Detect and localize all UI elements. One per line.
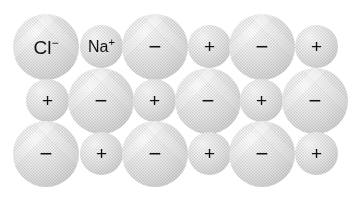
chloride-ion-r1-c1: Cl−: [13, 14, 79, 80]
sodium-ion-r3-c4: +: [188, 132, 231, 175]
positive-charge-sign: +: [204, 37, 215, 56]
negative-charge-sign: −: [256, 143, 269, 165]
chloride-ion-r2-c6: −: [282, 68, 348, 134]
chloride-ion-r1-c5: −: [229, 14, 295, 80]
chloride-ion-r3-c3: −: [122, 121, 188, 187]
sodium-ion-r1-c6: +: [295, 25, 338, 68]
chloride-ion-r3-c5: −: [229, 121, 295, 187]
negative-charge-sign: −: [149, 143, 162, 165]
ionic-lattice-figure: Cl−Na+−+−++−+−+−−+−+−+: [0, 0, 357, 197]
sodium-ion-r3-c2: +: [80, 132, 123, 175]
chloride-ion-r2-c4: −: [175, 68, 241, 134]
sodium-ion-r1-c2: Na+: [80, 25, 123, 68]
ion-formula-label: Cl−: [34, 38, 59, 57]
sodium-ion-r2-c1: +: [26, 79, 69, 122]
negative-charge-sign: −: [149, 36, 162, 58]
sodium-ion-r3-c6: +: [295, 132, 338, 175]
ion-formula-label: Na+: [88, 39, 115, 55]
chloride-ion-r3-c1: −: [13, 121, 79, 187]
positive-charge-sign: +: [42, 91, 53, 110]
ion-charge-superscript: −: [51, 35, 58, 49]
sodium-ion-r2-c5: +: [240, 79, 283, 122]
ion-element-symbol: Na: [88, 38, 108, 55]
positive-charge-sign: +: [204, 144, 215, 163]
chloride-ion-r1-c3: −: [122, 14, 188, 80]
negative-charge-sign: −: [202, 90, 215, 112]
ion-element-symbol: Cl: [34, 37, 52, 58]
chloride-ion-r2-c2: −: [68, 68, 134, 134]
positive-charge-sign: +: [311, 37, 322, 56]
sodium-ion-r2-c3: +: [133, 79, 176, 122]
negative-charge-sign: −: [309, 90, 322, 112]
negative-charge-sign: −: [40, 143, 53, 165]
ion-charge-superscript: +: [109, 35, 115, 47]
positive-charge-sign: +: [149, 91, 160, 110]
positive-charge-sign: +: [96, 144, 107, 163]
negative-charge-sign: −: [256, 36, 269, 58]
negative-charge-sign: −: [95, 90, 108, 112]
sodium-ion-r1-c4: +: [188, 25, 231, 68]
positive-charge-sign: +: [311, 144, 322, 163]
positive-charge-sign: +: [256, 91, 267, 110]
